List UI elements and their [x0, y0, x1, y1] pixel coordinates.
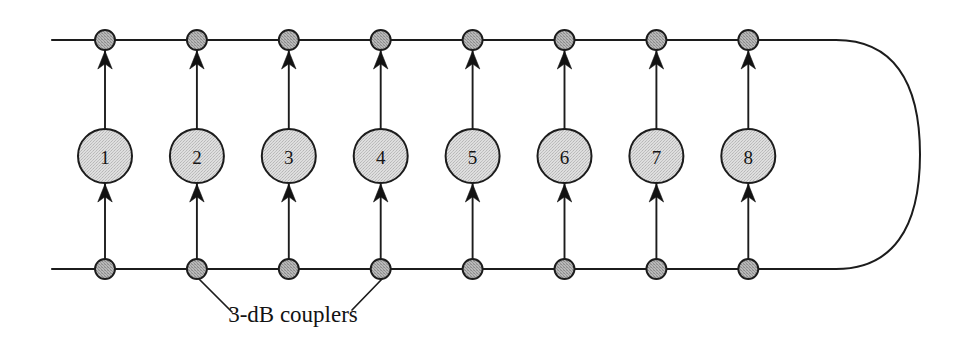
amplifier-label: 2	[192, 147, 202, 168]
coupler-node-top[interactable]	[463, 30, 483, 50]
coupler-ladder-diagram: 12345678 3-dB couplers	[0, 0, 967, 343]
figure-root: 12345678 3-dB couplers	[0, 0, 967, 343]
coupler-node-bottom[interactable]	[646, 259, 666, 279]
coupler-node-top[interactable]	[279, 30, 299, 50]
coupler-node-bottom[interactable]	[555, 259, 575, 279]
amplifier-label: 5	[468, 147, 478, 168]
coupler-node-bottom[interactable]	[371, 259, 391, 279]
coupler-node-bottom[interactable]	[738, 259, 758, 279]
amplifier-node[interactable]: 6	[538, 129, 592, 183]
coupler-node-bottom[interactable]	[95, 259, 115, 279]
coupler-node-top[interactable]	[555, 30, 575, 50]
coupler-node-top[interactable]	[371, 30, 391, 50]
coupler-node-top[interactable]	[646, 30, 666, 50]
annotation-leader-line	[199, 279, 232, 312]
amplifier-label: 1	[100, 147, 110, 168]
coupler-node-top[interactable]	[738, 30, 758, 50]
amplifier-label: 3	[284, 147, 294, 168]
amplifier-label: 6	[560, 147, 570, 168]
amplifier-node[interactable]: 8	[721, 129, 775, 183]
amplifier-node[interactable]: 7	[629, 129, 683, 183]
annotation-label-3db-couplers: 3-dB couplers	[228, 302, 358, 327]
coupler-node-bottom[interactable]	[463, 259, 483, 279]
annotation-layer: 3-dB couplers	[199, 279, 382, 327]
amplifiers-layer: 12345678	[78, 129, 775, 183]
right-loopback-path	[836, 40, 920, 269]
coupler-node-bottom[interactable]	[279, 259, 299, 279]
amplifier-node[interactable]: 5	[446, 129, 500, 183]
coupler-node-bottom[interactable]	[187, 259, 207, 279]
amplifier-node[interactable]: 4	[354, 129, 408, 183]
amplifier-label: 4	[376, 147, 386, 168]
amplifier-label: 7	[652, 147, 662, 168]
coupler-node-top[interactable]	[95, 30, 115, 50]
amplifier-node[interactable]: 2	[170, 129, 224, 183]
amplifier-label: 8	[744, 147, 754, 168]
coupler-node-top[interactable]	[187, 30, 207, 50]
amplifier-node[interactable]: 3	[262, 129, 316, 183]
amplifier-node[interactable]: 1	[78, 129, 132, 183]
